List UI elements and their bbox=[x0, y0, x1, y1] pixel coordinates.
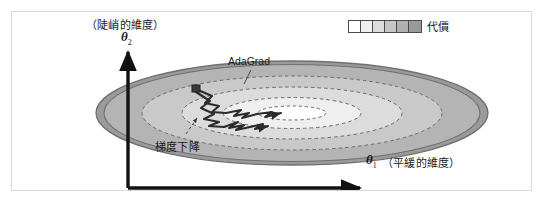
legend-cell-2 bbox=[361, 21, 373, 32]
cost-legend: 代價 bbox=[348, 18, 449, 34]
legend-cell-5 bbox=[397, 21, 409, 32]
x-axis-symbol-base: θ bbox=[366, 152, 373, 167]
x-axis-symbol-subscript: 1 bbox=[373, 161, 377, 170]
y-axis-symbol-subscript: 2 bbox=[128, 38, 132, 47]
y-axis-symbol: θ2 bbox=[121, 29, 132, 47]
legend-cell-1 bbox=[349, 21, 361, 32]
legend-cell-4 bbox=[385, 21, 397, 32]
gradient-descent-annotation-label: 梯度下降 bbox=[155, 138, 200, 154]
x-axis-caption: （平緩的維度） bbox=[382, 154, 460, 170]
figure-container: （陡峭的維度） θ2 θ1 （平緩的維度） AdaGrad 梯度下降 代價 bbox=[0, 0, 546, 205]
contour-plot bbox=[0, 0, 546, 205]
x-axis-symbol: θ1 bbox=[366, 152, 377, 170]
legend-label: 代價 bbox=[427, 18, 449, 34]
legend-cell-6 bbox=[409, 21, 421, 32]
legend-cell-3 bbox=[373, 21, 385, 32]
y-axis-symbol-base: θ bbox=[121, 29, 128, 44]
start-point-marker bbox=[192, 85, 200, 92]
adagrad-annotation-label: AdaGrad bbox=[228, 55, 270, 67]
legend-gradient-bar bbox=[348, 20, 422, 33]
